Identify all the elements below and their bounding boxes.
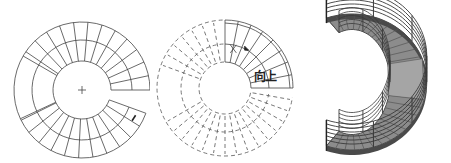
spiral-stair-plan-view xyxy=(0,0,150,163)
3d-staircase-render xyxy=(300,0,451,163)
plan-view-drawing xyxy=(0,0,150,163)
spiral-stair-dashed-plan: 向上 xyxy=(150,0,300,163)
spiral-stair-3d-render xyxy=(300,0,451,163)
up-direction-label: 向上 xyxy=(254,71,276,83)
dashed-plan-drawing xyxy=(150,0,300,163)
